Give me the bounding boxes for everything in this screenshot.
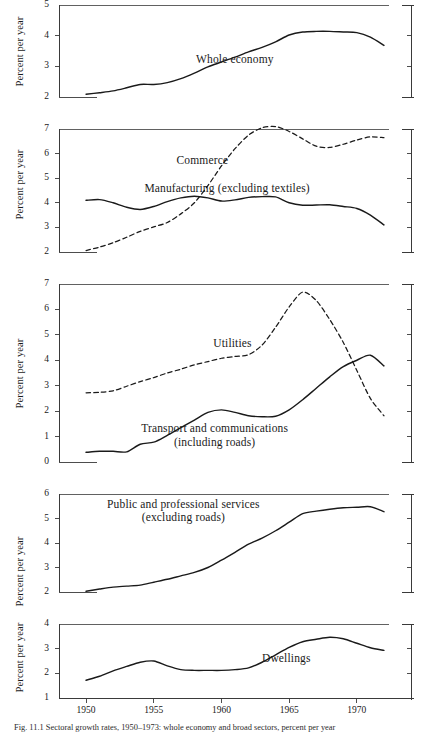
x-axis-tick-label: 1960 (201, 705, 241, 715)
y-axis-tick-label: 3 (23, 643, 49, 653)
series-label-line: Transport and communications (141, 422, 288, 436)
series-label-line: (excluding roads) (107, 511, 260, 525)
y-axis-tick-label: 6 (23, 303, 49, 313)
series-label: Transport and communications(including r… (141, 422, 288, 449)
y-axis-title: Percent per year (14, 622, 25, 692)
series-line (86, 637, 384, 680)
series-label: Manufacturing (excluding textiles) (144, 182, 309, 194)
y-axis-tick-label: 2 (23, 91, 49, 101)
series-label: Utilities (213, 337, 251, 349)
y-axis-tick-label: 7 (23, 123, 49, 133)
series-label-line: (including roads) (141, 436, 288, 450)
y-axis-tick-label: 4 (23, 354, 49, 364)
y-axis-tick-label: 3 (23, 380, 49, 390)
y-axis-tick-label: 4 (23, 30, 49, 40)
y-axis-title: Percent per year (14, 536, 25, 606)
figure-container: 2345Whole economy234567CommerceManufactu… (0, 0, 430, 733)
y-axis-tick-label: 5 (23, 172, 49, 182)
y-axis-tick-label: 2 (23, 246, 49, 256)
y-axis-tick-label: 1 (23, 431, 49, 441)
y-axis-tick-label: 2 (23, 405, 49, 415)
y-axis-tick-label: 0 (23, 456, 49, 466)
y-axis-tick-label: 6 (23, 148, 49, 158)
series-label: Whole economy (196, 53, 274, 65)
series-label-line: Public and professional services (107, 498, 260, 512)
y-axis-tick-label: 7 (23, 278, 49, 288)
y-axis-title: Percent per year (14, 150, 25, 220)
y-axis-tick-label: 2 (23, 586, 49, 596)
y-axis-tick-label: 3 (23, 221, 49, 231)
y-axis-tick-label: 4 (23, 537, 49, 547)
y-axis-tick-label: 6 (23, 488, 49, 498)
y-axis-tick-label: 2 (23, 667, 49, 677)
y-axis-title: Percent per year (14, 16, 25, 86)
y-axis-tick-label: 1 (23, 692, 49, 702)
y-axis-tick-label: 5 (23, 329, 49, 339)
x-axis-tick-label: 1965 (269, 705, 309, 715)
y-axis-tick-label: 3 (23, 562, 49, 572)
y-axis-tick-label: 4 (23, 197, 49, 207)
x-axis-tick-label: 1970 (337, 705, 377, 715)
figure-caption: Fig. 11.1 Sectoral growth rates, 1950–19… (14, 723, 422, 733)
series-label: Dwellings (262, 652, 311, 664)
series-label: Commerce (177, 154, 229, 166)
series-line (86, 292, 384, 416)
series-label: Public and professional services(excludi… (107, 498, 260, 525)
y-axis-tick-label: 4 (23, 618, 49, 628)
y-axis-tick-label: 5 (23, 513, 49, 523)
x-axis-tick-label: 1955 (134, 705, 174, 715)
y-axis-title: Percent per year (14, 338, 25, 408)
y-axis-tick-label: 5 (23, 0, 49, 9)
y-axis-tick-label: 3 (23, 60, 49, 70)
x-axis-tick-label: 1950 (66, 705, 106, 715)
chart-canvas (0, 0, 430, 733)
series-line (86, 196, 384, 225)
